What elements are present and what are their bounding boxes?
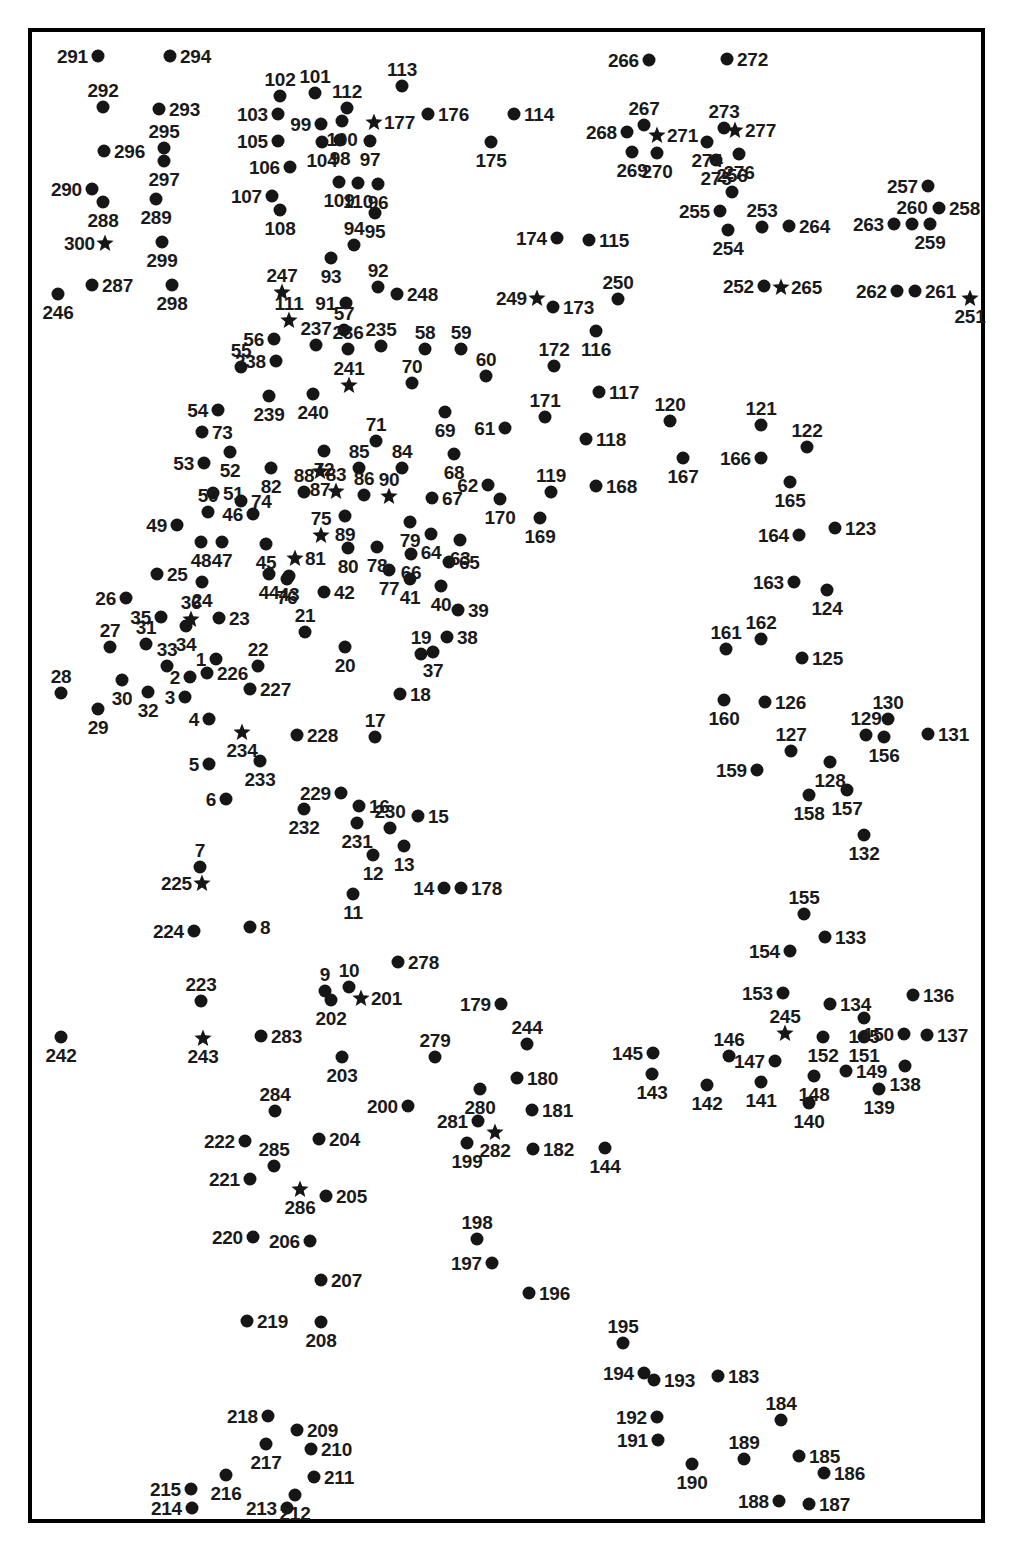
- dot-marker: [733, 148, 746, 161]
- dot-marker: [203, 713, 216, 726]
- point-label: 266: [608, 51, 639, 70]
- dot-marker: [262, 1410, 275, 1423]
- point-label: 100: [326, 130, 357, 149]
- point-label: 225: [161, 874, 192, 893]
- dot-marker: [336, 1051, 349, 1064]
- point-label: 32: [138, 701, 159, 720]
- point-label: 93: [321, 267, 342, 286]
- point-label: 52: [220, 461, 241, 480]
- point-label: 257: [887, 177, 918, 196]
- point-label: 215: [150, 1480, 181, 1499]
- dot-marker: [593, 386, 606, 399]
- point-label: 192: [616, 1408, 647, 1427]
- dot-marker: [97, 101, 110, 114]
- point-label: 124: [811, 599, 842, 618]
- dot-marker: [422, 108, 435, 121]
- dot-marker: [796, 652, 809, 665]
- point-label: 61: [474, 419, 495, 438]
- dot-marker: [391, 288, 404, 301]
- point-label: 120: [654, 395, 685, 414]
- dot-marker: [784, 476, 797, 489]
- dot-marker: [419, 343, 432, 356]
- dot-marker: [858, 829, 871, 842]
- point-label: 107: [231, 187, 262, 206]
- dot-marker: [651, 147, 664, 160]
- dot-marker: [921, 1029, 934, 1042]
- dot-marker: [924, 218, 937, 231]
- point-label: 103: [237, 105, 268, 124]
- point-label: 161: [710, 623, 741, 642]
- point-label: 56: [243, 330, 264, 349]
- point-label: 26: [95, 589, 116, 608]
- dot-marker: [120, 592, 133, 605]
- dot-marker: [527, 1143, 540, 1156]
- point-label: 141: [745, 1091, 776, 1110]
- point-label: 243: [187, 1047, 218, 1066]
- point-label: 224: [153, 922, 184, 941]
- point-label: 139: [863, 1098, 894, 1117]
- dot-marker: [454, 534, 467, 547]
- dot-marker: [272, 108, 285, 121]
- point-label: 152: [807, 1046, 838, 1065]
- point-label: 191: [617, 1431, 648, 1450]
- point-label: 265: [791, 278, 822, 297]
- dot-marker: [308, 1471, 321, 1484]
- dot-marker: [922, 728, 935, 741]
- point-label: 167: [667, 467, 698, 486]
- point-label: 280: [464, 1098, 495, 1117]
- dot-marker: [375, 340, 388, 353]
- dot-marker: [220, 793, 233, 806]
- dot-marker: [213, 612, 226, 625]
- point-label: 116: [581, 340, 611, 359]
- point-label: 71: [366, 415, 387, 434]
- dot-marker: [677, 452, 690, 465]
- dot-marker: [798, 908, 811, 921]
- point-label: 282: [479, 1141, 510, 1160]
- point-label: 33: [157, 640, 178, 659]
- dot-marker: [777, 987, 790, 1000]
- dot-marker: [755, 452, 768, 465]
- point-label: 287: [102, 276, 133, 295]
- point-label: 90: [379, 470, 400, 489]
- dot-marker: [860, 729, 873, 742]
- dot-marker: [461, 1137, 474, 1150]
- point-label: 194: [603, 1364, 634, 1383]
- point-label: 228: [307, 726, 338, 745]
- dot-marker: [548, 360, 561, 373]
- point-label: 189: [728, 1433, 759, 1452]
- point-label: 230: [374, 802, 405, 821]
- dot-marker: [195, 995, 208, 1008]
- point-label: 254: [712, 239, 743, 258]
- point-label: 296: [114, 142, 145, 161]
- dot-marker: [291, 1424, 304, 1437]
- point-label: 46: [222, 505, 243, 524]
- dot-marker: [305, 1443, 318, 1456]
- dot-marker: [116, 674, 129, 687]
- dot-marker: [486, 1257, 499, 1270]
- dot-marker: [583, 234, 596, 247]
- dot-marker: [758, 280, 771, 293]
- point-label: 128: [814, 771, 845, 790]
- dot-marker: [339, 510, 352, 523]
- dot-marker: [755, 419, 768, 432]
- point-label: 220: [212, 1228, 243, 1247]
- point-label: 242: [45, 1046, 76, 1065]
- point-label: 150: [863, 1025, 894, 1044]
- point-label: 76: [277, 588, 298, 607]
- point-label: 175: [475, 151, 506, 170]
- point-label: 250: [602, 273, 633, 292]
- dot-marker: [718, 694, 731, 707]
- dot-marker: [580, 433, 593, 446]
- point-label: 68: [444, 463, 465, 482]
- point-label: 159: [716, 761, 747, 780]
- dot-marker: [289, 1489, 302, 1502]
- dot-marker: [325, 252, 338, 265]
- point-label: 29: [88, 718, 109, 737]
- point-label: 295: [148, 122, 179, 141]
- dot-marker: [153, 103, 166, 116]
- dot-marker: [612, 293, 625, 306]
- dot-marker: [803, 1498, 816, 1511]
- dot-marker: [186, 1502, 199, 1515]
- dot-marker: [547, 301, 560, 314]
- point-label: 203: [326, 1066, 357, 1085]
